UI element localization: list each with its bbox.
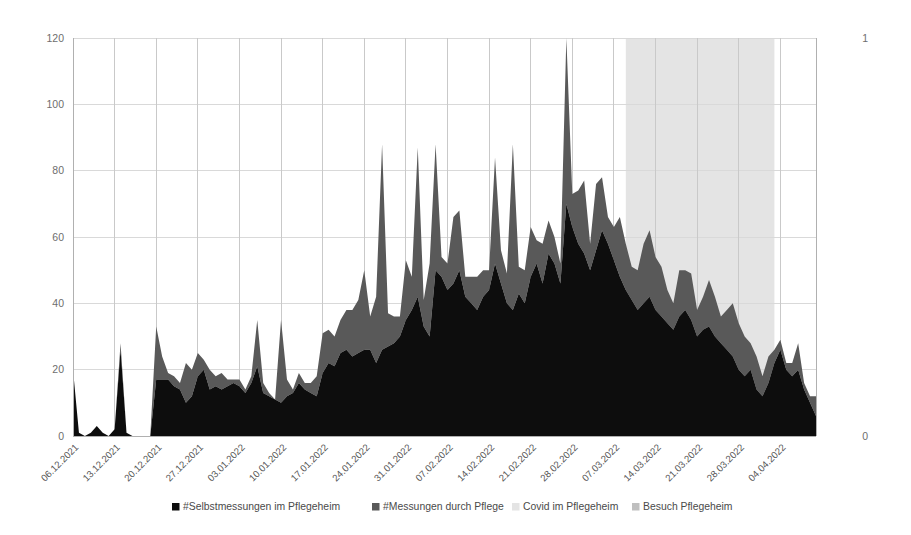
legend-swatch [172, 503, 180, 511]
x-tick-label: 07.03.2022 [580, 442, 622, 484]
legend-label: #Selbstmessungen im Pflegeheim [183, 501, 340, 512]
x-tick-label: 28.02.2022 [538, 442, 580, 484]
y-tick-label: 120 [46, 32, 64, 44]
y-tick-label: 100 [46, 98, 64, 110]
x-tick-label: 20.12.2021 [122, 442, 164, 484]
legend-label: Besuch Pflegeheim [643, 501, 733, 512]
y-axis-tick-labels: 020406080100120 [46, 32, 64, 442]
area-chart: 020406080100120 01 06.12.202113.12.20212… [0, 0, 911, 535]
y-tick-label: 0 [58, 430, 64, 442]
legend-label: #Messungen durch Pflege [383, 501, 504, 512]
legend-swatch [632, 503, 640, 511]
x-tick-label: 21.03.2022 [663, 442, 705, 484]
y-tick-label: 80 [52, 164, 64, 176]
y-tick-label: 60 [52, 231, 64, 243]
x-axis-tick-labels: 06.12.202113.12.202120.12.202127.12.2021… [39, 442, 788, 484]
legend-swatch [512, 503, 520, 511]
legend-label: Covid im Pflegeheim [523, 501, 618, 512]
x-tick-label: 13.12.2021 [80, 442, 122, 484]
x-tick-label: 04.04.2022 [746, 442, 788, 484]
x-tick-label: 14.02.2022 [455, 442, 497, 484]
chart-container: 020406080100120 01 06.12.202113.12.20212… [0, 0, 911, 535]
x-tick-label: 27.12.2021 [163, 442, 205, 484]
y2-tick-label: 1 [862, 32, 868, 44]
secondary-y-axis-tick-labels: 01 [862, 32, 868, 442]
x-tick-label: 24.01.2022 [330, 442, 372, 484]
x-tick-label: 31.01.2022 [372, 442, 414, 484]
y-tick-label: 40 [52, 297, 64, 309]
x-tick-label: 14.03.2022 [621, 442, 663, 484]
x-tick-label: 03.01.2022 [205, 442, 247, 484]
chart-legend: #Selbstmessungen im Pflegeheim#Messungen… [172, 501, 733, 512]
y2-tick-label: 0 [862, 430, 868, 442]
x-tick-label: 28.03.2022 [704, 442, 746, 484]
x-tick-label: 10.01.2022 [247, 442, 289, 484]
x-tick-label: 21.02.2022 [496, 442, 538, 484]
x-tick-label: 06.12.2021 [39, 442, 81, 484]
y-tick-label: 20 [52, 363, 64, 375]
legend-swatch [372, 503, 380, 511]
x-tick-label: 07.02.2022 [413, 442, 455, 484]
x-tick-label: 17.01.2022 [288, 442, 330, 484]
